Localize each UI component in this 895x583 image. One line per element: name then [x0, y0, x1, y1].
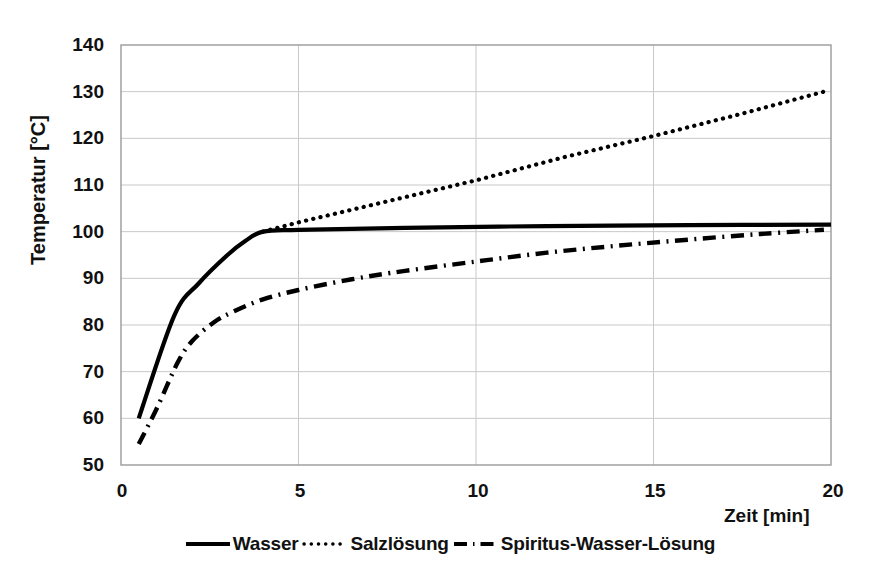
plot-area — [0, 0, 895, 583]
legend-swatch-dashdot — [453, 537, 499, 551]
series-line-wasser — [139, 225, 831, 419]
series-line-spiritus-wasser-l-sung — [139, 230, 824, 444]
legend-label-wasser: Wasser — [233, 533, 299, 555]
data-series-layer — [139, 92, 831, 444]
temperature-time-chart: Temperatur [°C] 140 130 120 110 100 90 8… — [0, 0, 895, 583]
legend-swatch-dotted — [302, 537, 348, 551]
series-line-salzl-sung — [263, 92, 824, 232]
legend-item-spiritus-wasser-loesung[interactable]: Spiritus-Wasser-Lösung — [453, 533, 715, 555]
legend-label-spiritus-wasser-loesung: Spiritus-Wasser-Lösung — [501, 533, 715, 555]
legend-swatch-solid — [185, 537, 231, 551]
legend-item-wasser[interactable]: Wasser — [185, 533, 299, 555]
legend-label-salzloesung: Salzlösung — [350, 533, 448, 555]
legend-item-salzloesung[interactable]: Salzlösung — [302, 533, 448, 555]
chart-legend: Wasser Salzlösung Spiritus-Wasser-Lösung — [112, 524, 792, 564]
